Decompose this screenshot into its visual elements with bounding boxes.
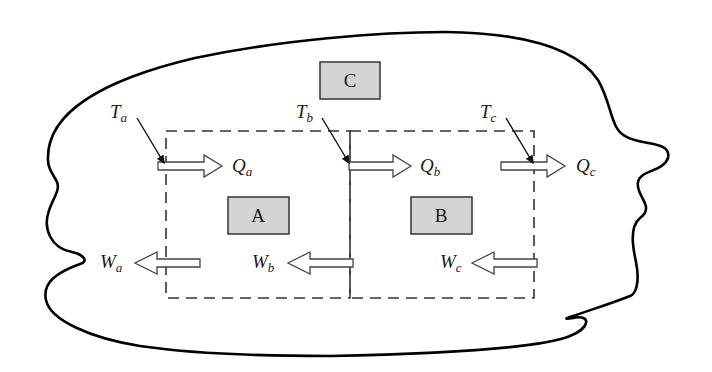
engine-box-c: C (320, 62, 380, 99)
work-arrow-b-icon (288, 252, 353, 274)
heat-label-a: Qa (232, 155, 253, 179)
work-label-a: Wa (100, 251, 123, 275)
thermo-diagram: C A B Ta Tb Tc Qa Qb Qc Wa Wb Wc (0, 0, 712, 372)
heat-label-c: Qc (576, 155, 596, 179)
engine-label-b: B (435, 205, 448, 226)
work-label-b: Wb (252, 251, 275, 275)
heat-arrow-a-icon (158, 155, 222, 177)
heat-arrow-c-icon (501, 155, 565, 177)
heat-arrow-b-icon (349, 155, 411, 177)
heat-label-b: Qb (420, 155, 441, 179)
work-label-c: Wc (440, 251, 462, 275)
engine-label-a: A (251, 205, 265, 226)
engine-box-a: A (228, 197, 289, 234)
engine-box-b: B (411, 197, 472, 234)
temp-pointer-b-icon (322, 118, 349, 163)
temp-label-b: Tb (296, 101, 314, 125)
temp-pointer-a-icon (137, 118, 164, 163)
temp-label-a: Ta (110, 101, 128, 125)
temp-label-c: Tc (480, 101, 497, 125)
engine-label-c: C (344, 70, 357, 91)
work-arrow-c-icon (472, 252, 537, 274)
work-arrow-a-icon (135, 252, 200, 274)
temp-pointer-c-icon (506, 118, 533, 163)
